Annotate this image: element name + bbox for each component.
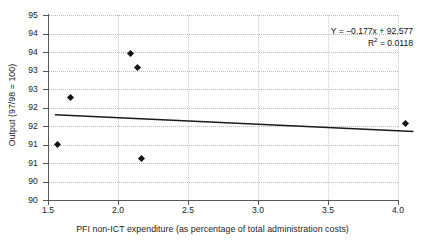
x-axis-tick-label: 1.5 (28, 206, 68, 215)
grid-line-vertical (188, 15, 189, 200)
grid-line-horizontal (48, 52, 398, 53)
y-axis-tick-label: 94 (8, 48, 38, 57)
grid-line-horizontal (48, 126, 398, 127)
y-axis-line (48, 14, 49, 201)
grid-line-horizontal (48, 163, 398, 164)
grid-line-vertical (118, 15, 119, 200)
x-axis-tick-label: 4.0 (378, 206, 418, 215)
x-axis-title: PFI non-ICT expenditure (as percentage o… (0, 224, 425, 234)
grid-line-horizontal (48, 15, 398, 16)
r-squared-value: = 0.0118 (378, 38, 413, 48)
grid-line-horizontal (48, 182, 398, 183)
y-axis-tick-label: 93 (8, 85, 38, 94)
x-axis-tick-label: 2.5 (168, 206, 208, 215)
grid-line-horizontal (48, 108, 398, 109)
r-squared-text: R2 = 0.0118 (331, 38, 413, 50)
x-axis-tick-label: 3.0 (238, 206, 278, 215)
y-axis-tick-label: 90 (8, 177, 38, 186)
y-axis-tick (43, 145, 48, 146)
y-axis-tick-label: 92 (8, 103, 38, 112)
scatter-chart: PFI non-ICT expenditure (as percentage o… (0, 0, 425, 244)
y-axis-tick (43, 71, 48, 72)
y-axis-tick-label: 91 (8, 140, 38, 149)
y-axis-tick (43, 52, 48, 53)
y-axis-tick (43, 108, 48, 109)
y-axis-tick-label: 94 (8, 29, 38, 38)
y-axis-tick (43, 34, 48, 35)
y-axis-tick-label: 91 (8, 159, 38, 168)
grid-line-horizontal (48, 145, 398, 146)
y-axis-tick-label: 92 (8, 122, 38, 131)
y-axis-tick (43, 182, 48, 183)
grid-line-vertical (258, 15, 259, 200)
y-axis-tick (43, 126, 48, 127)
y-axis-tick (43, 15, 48, 16)
grid-line-horizontal (48, 89, 398, 90)
y-axis-tick (43, 89, 48, 90)
y-axis-tick-label: 90 (8, 196, 38, 205)
data-point (401, 120, 408, 127)
grid-line-vertical (328, 15, 329, 200)
y-axis-tick-label: 93 (8, 66, 38, 75)
x-axis-tick-label: 3.5 (308, 206, 348, 215)
x-axis-line (47, 200, 399, 201)
x-axis-tick-label: 2.0 (98, 206, 138, 215)
y-axis-tick (43, 163, 48, 164)
y-axis-tick-label: 95 (8, 11, 38, 20)
grid-line-horizontal (48, 71, 398, 72)
equation-annotation: Y = −0.177x + 92.577 R2 = 0.0118 (331, 26, 413, 49)
regression-equation-text: Y = −0.177x + 92.577 (331, 26, 413, 38)
